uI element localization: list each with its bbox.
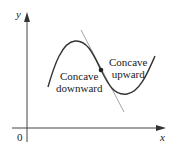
y-axis-label: y: [16, 8, 21, 20]
concave-downward-label: Concave downward: [56, 70, 102, 94]
concave-downward-line2: downward: [56, 82, 102, 94]
origin-label: 0: [17, 131, 23, 143]
concave-upward-line2: upward: [109, 68, 147, 80]
x-axis-label: x: [160, 131, 165, 143]
y-axis-arrow-icon: [24, 12, 30, 22]
concave-upward-label: Concave upward: [109, 56, 147, 80]
concavity-diagram: y x 0 Concave downward Concave upward: [0, 0, 179, 150]
concave-downward-line1: Concave: [56, 70, 102, 82]
concave-upward-line1: Concave: [109, 56, 147, 68]
